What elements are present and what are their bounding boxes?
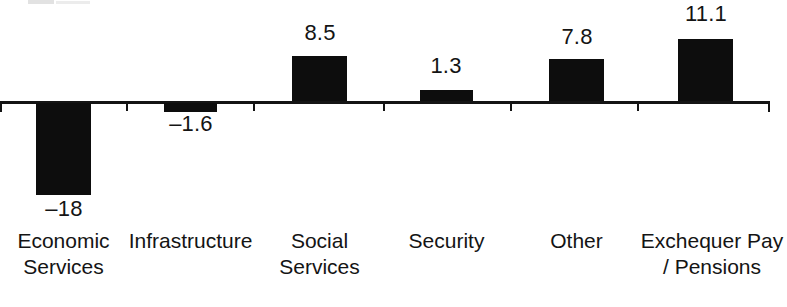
zero-baseline-axis [0, 101, 770, 104]
axis-tick-2 [253, 101, 255, 111]
axis-tick-1 [126, 101, 128, 111]
axis-tick-3 [383, 101, 385, 111]
category-label-line1: Exchequer Pay [637, 228, 787, 254]
value-label-social-services: 8.5 [289, 22, 351, 44]
category-label-line1: Security [383, 228, 510, 254]
axis-tick-6 [768, 101, 770, 112]
value-label-other: 7.8 [546, 26, 608, 48]
category-label-social-services: SocialServices [256, 228, 383, 280]
value-label-exchequer-pay-pensions: 11.1 [671, 3, 741, 25]
axis-tick-4 [510, 101, 512, 111]
bar-other [549, 59, 604, 101]
axis-tick-5 [637, 101, 639, 111]
value-label-infrastructure: –1.6 [156, 113, 226, 135]
bar-economic-services [36, 103, 91, 195]
category-label-exchequer-pay-pensions: Exchequer Pay/ Pensions [637, 228, 787, 280]
category-label-line2: / Pensions [637, 254, 787, 280]
value-label-economic-services: –18 [33, 198, 95, 220]
bar-chart: –18–1.68.51.37.811.1 EconomicServicesInf… [0, 0, 787, 307]
value-label-security: 1.3 [415, 55, 477, 77]
category-label-line1: Social [256, 228, 383, 254]
category-label-other: Other [513, 228, 640, 254]
bar-security [420, 90, 473, 101]
axis-tick-0 [0, 101, 2, 112]
category-label-line1: Economic [0, 228, 127, 254]
category-label-security: Security [383, 228, 510, 254]
category-label-line2: Services [256, 254, 383, 280]
bar-exchequer-pay-pensions [678, 39, 733, 101]
category-label-infrastructure: Infrastructure [127, 228, 254, 254]
category-label-line1: Infrastructure [127, 228, 254, 254]
bar-social-services [292, 56, 347, 101]
category-label-line2: Services [0, 254, 127, 280]
plot-area: –18–1.68.51.37.811.1 [0, 0, 787, 230]
category-label-economic-services: EconomicServices [0, 228, 127, 280]
category-label-line1: Other [513, 228, 640, 254]
